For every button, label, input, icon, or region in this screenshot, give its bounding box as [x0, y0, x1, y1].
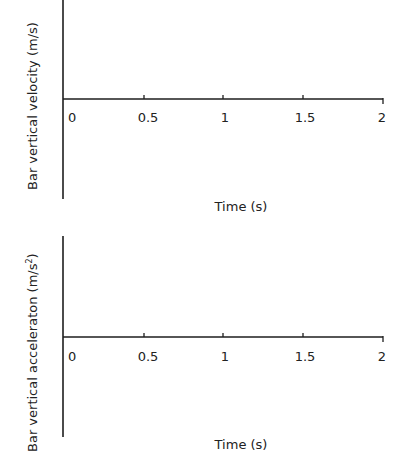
acceleration-tick-label-1: 1 — [221, 350, 229, 364]
acceleration-y-axis-title-main: Bar vertical acceleraton (m/s — [25, 264, 40, 452]
acceleration-y-axis-title-close: ) — [25, 253, 40, 258]
acceleration-y-axis-title-exponent: 2 — [25, 258, 34, 263]
acceleration-tick-label-0.5: 0.5 — [138, 350, 159, 364]
acceleration-tick-label-2: 2 — [378, 350, 386, 364]
acceleration-chart: 0 0.5 1 1.5 2 Time (s) Bar vertical acce… — [0, 0, 408, 473]
acceleration-y-axis-title: Bar vertical acceleraton (m/s2) — [26, 253, 40, 452]
acceleration-axes — [0, 0, 408, 473]
acceleration-x-axis-title: Time (s) — [215, 438, 268, 452]
acceleration-tick-label-0: 0 — [68, 350, 76, 364]
acceleration-tick-label-1.5: 1.5 — [295, 350, 316, 364]
